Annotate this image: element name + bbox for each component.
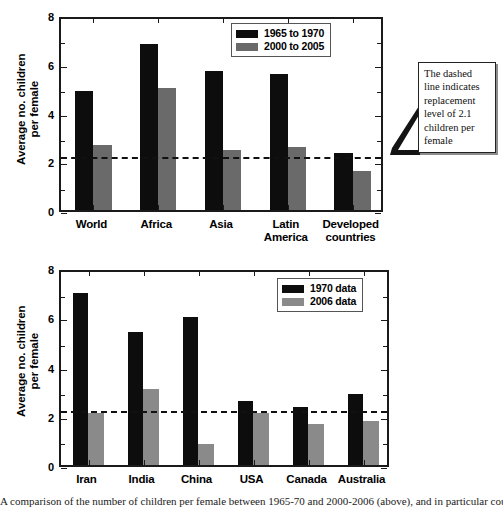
x-axis-tick (89, 272, 90, 276)
x-axis-tick (254, 272, 255, 276)
x-axis-label: Australia (326, 473, 398, 486)
legend-item: 2006 data (282, 295, 356, 308)
chart-panel-countries: Average no. children per female 02468 Ir… (0, 250, 503, 500)
bar-usa-series2 (253, 413, 268, 465)
bar-developed-countries-series1 (334, 153, 352, 210)
y-axis-tick-label: 0 (34, 462, 54, 473)
y-axis-tick-label: 4 (34, 363, 54, 374)
bar-india-series2 (143, 389, 158, 465)
bar-group (75, 19, 111, 210)
y-axis-tick-major (61, 468, 67, 469)
y-axis-tick-major (381, 370, 387, 371)
y-axis-tick-minor (61, 395, 65, 396)
bar-group (238, 272, 269, 465)
y-axis-tick-major (375, 67, 381, 68)
bar-iran-series2 (88, 413, 103, 465)
legend-swatch-series1 (236, 30, 258, 38)
x-axis-tick (144, 460, 145, 465)
legend-label-series1: 1965 to 1970 (264, 28, 324, 39)
legend-swatch-series2 (236, 43, 258, 51)
x-axis-tick (353, 19, 354, 23)
y-axis-tick-minor (61, 92, 65, 93)
bar-latin-america-series1 (270, 74, 288, 211)
bar-group (183, 272, 214, 465)
x-axis-tick (89, 460, 90, 465)
x-axis-tick (223, 205, 224, 210)
y-axis-tick-minor (61, 190, 65, 191)
x-axis-tick (144, 272, 145, 276)
x-axis-tick (353, 205, 354, 210)
bar-africa-series2 (158, 88, 176, 210)
y-axis-tick-major (61, 320, 67, 321)
bar-developed-countries-series2 (353, 171, 371, 210)
legend-label-series2: 2000 to 2005 (264, 41, 324, 52)
y-axis-tick-major (381, 271, 387, 272)
y-axis-tick-label: 8 (34, 265, 54, 276)
legend-countries: 1970 data 2006 data (277, 278, 363, 312)
bar-group (73, 272, 104, 465)
bar-group-container-top (61, 19, 381, 210)
figure-caption: A comparison of the number of children p… (0, 494, 503, 508)
y-axis-tick-minor (377, 43, 381, 44)
bar-asia-series2 (223, 150, 241, 210)
y-axis-tick-major (61, 213, 67, 214)
y-axis-tick-label: 6 (34, 60, 54, 71)
x-axis-tick (93, 205, 94, 210)
legend-label-series1: 1970 data (310, 283, 356, 294)
y-axis-tick-major (61, 67, 67, 68)
bar-group (128, 272, 159, 465)
y-axis-tick-minor (61, 346, 65, 347)
dashed-replacement-line-bottom (61, 411, 387, 413)
bar-group (140, 19, 176, 210)
y-axis-tick-label: 6 (34, 314, 54, 325)
y-axis-tick-minor (377, 141, 381, 142)
plot-area-regions (59, 17, 383, 212)
y-axis-tick-minor (377, 92, 381, 93)
annotation-callout: The dashed line indicates replacement le… (418, 62, 496, 153)
bar-world-series2 (93, 145, 111, 210)
bar-australia-series2 (363, 421, 378, 465)
y-axis-tick-major (61, 370, 67, 371)
bar-china-series2 (198, 444, 213, 465)
y-axis-tick-major (381, 468, 387, 469)
y-axis-tick-major (375, 164, 381, 165)
bar-canada-series2 (308, 424, 323, 465)
y-axis-tick-minor (383, 297, 387, 298)
x-axis-tick (309, 460, 310, 465)
legend-swatch-series1 (282, 285, 304, 293)
legend-regions: 1965 to 1970 2000 to 2005 (231, 23, 331, 57)
legend-swatch-series2 (282, 298, 304, 306)
x-axis-tick (288, 205, 289, 210)
bar-australia-series1 (348, 394, 363, 465)
y-axis-tick-minor (377, 190, 381, 191)
y-axis-tick-major (381, 419, 387, 420)
x-axis-label: Developed countries (308, 218, 392, 244)
x-axis-tick (309, 272, 310, 276)
bar-world-series1 (75, 91, 93, 210)
y-axis-tick-label: 2 (34, 158, 54, 169)
bar-africa-series1 (140, 44, 158, 210)
y-axis-tick-label: 4 (34, 109, 54, 120)
legend-label-series2: 2006 data (310, 296, 356, 307)
bar-group (334, 19, 370, 210)
legend-item: 1965 to 1970 (236, 27, 324, 40)
y-axis-tick-label: 8 (34, 12, 54, 23)
bar-china-series1 (183, 317, 198, 465)
dashed-replacement-line-top (61, 157, 381, 159)
y-axis-tick-minor (61, 43, 65, 44)
legend-item: 2000 to 2005 (236, 40, 324, 53)
y-axis-tick-major (61, 419, 67, 420)
y-axis-tick-major (61, 18, 67, 19)
y-axis-tick-major (381, 320, 387, 321)
y-axis-tick-major (375, 213, 381, 214)
annotation-text: The dashed line indicates replacement le… (424, 67, 490, 148)
y-axis-tick-label: 2 (34, 412, 54, 423)
x-axis-tick (158, 205, 159, 210)
legend-item: 1970 data (282, 282, 356, 295)
y-axis-tick-minor (383, 444, 387, 445)
x-axis-tick (93, 19, 94, 23)
y-axis-tick-major (61, 116, 67, 117)
bar-iran-series1 (73, 293, 88, 465)
bar-canada-series1 (293, 407, 308, 465)
